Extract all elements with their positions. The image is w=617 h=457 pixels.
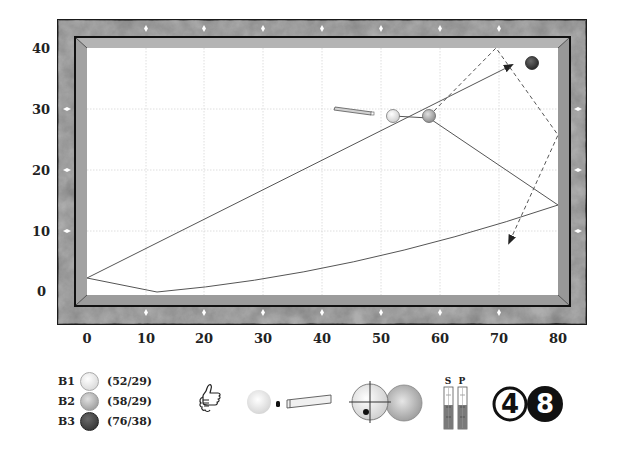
ball-b3 bbox=[526, 57, 539, 70]
y-tick-30: 30 bbox=[32, 102, 50, 117]
ball-coordinates: (58/29) bbox=[107, 395, 152, 408]
power-gauge bbox=[458, 387, 467, 429]
cushion-count-number: 4 bbox=[501, 389, 519, 419]
x-tick-0: 0 bbox=[82, 331, 91, 346]
y-tick-20: 20 bbox=[32, 163, 50, 178]
y-tick-40: 40 bbox=[32, 41, 50, 56]
cue-stroke-icon bbox=[247, 390, 331, 414]
x-tick-50: 50 bbox=[372, 331, 390, 346]
x-tick-60: 60 bbox=[431, 331, 449, 346]
thumbs-up-icon bbox=[200, 385, 220, 412]
speed-gauge bbox=[444, 387, 453, 429]
difficulty-number: 8 bbox=[536, 389, 554, 419]
legend-row-b1: B1 (52/29) bbox=[58, 371, 152, 391]
ball-swatch-gray bbox=[80, 392, 99, 411]
ball-legend: B1 (52/29) B2 (58/29) B3 (76/38) bbox=[58, 371, 152, 431]
ball-swatch-dark bbox=[80, 412, 99, 431]
cushion-count-badge: 4 bbox=[494, 388, 526, 420]
legend-row-b3: B3 (76/38) bbox=[58, 411, 152, 431]
difficulty-badge: 8 bbox=[527, 386, 563, 422]
y-axis-labels: 40 30 20 10 0 bbox=[32, 41, 50, 299]
ball-contact-aim-icon bbox=[349, 381, 422, 423]
speed-power-gauges: S P bbox=[444, 376, 467, 429]
y-tick-10: 10 bbox=[32, 224, 50, 239]
power-label: P bbox=[459, 376, 466, 386]
x-tick-20: 20 bbox=[195, 331, 213, 346]
x-tick-70: 70 bbox=[490, 331, 508, 346]
ball-b1 bbox=[387, 110, 400, 123]
x-tick-10: 10 bbox=[137, 331, 155, 346]
ball-b2 bbox=[423, 110, 436, 123]
ball-id: B2 bbox=[58, 395, 80, 408]
ball-coordinates: (76/38) bbox=[107, 415, 152, 428]
ball-swatch-white bbox=[80, 372, 99, 391]
y-tick-0: 0 bbox=[37, 284, 46, 299]
x-tick-80: 80 bbox=[549, 331, 567, 346]
ball-id: B1 bbox=[58, 375, 80, 388]
x-tick-40: 40 bbox=[313, 331, 331, 346]
x-axis-labels: 0 10 20 30 40 50 60 70 80 bbox=[82, 331, 567, 346]
ball-id: B3 bbox=[58, 415, 80, 428]
x-tick-30: 30 bbox=[254, 331, 272, 346]
legend-row-b2: B2 (58/29) bbox=[58, 391, 152, 411]
speed-label: S bbox=[445, 376, 452, 386]
ball-coordinates: (52/29) bbox=[107, 375, 152, 388]
